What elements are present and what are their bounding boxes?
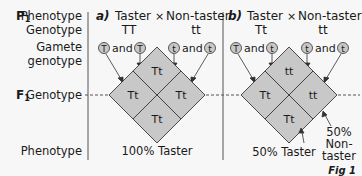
cell-bottom-genotype: Tt [150,113,163,126]
cell-right-genotype: Tt [174,89,187,102]
gamete-label-line2: genotype [28,54,82,68]
f1-phenotype-label: Phenotype [21,144,82,158]
panel-a: a) Taster × Non-taster TT tt T and T t a… [96,9,230,158]
figure-label: Fig 1 [328,165,356,176]
panel-a-parent1-phenotype: Taster [114,9,151,23]
panel-b-letter: b) [228,9,242,23]
cell-right-genotype: tt [309,89,318,102]
panel-a-parent2-phenotype: Non-taster [166,9,230,23]
gamete-and-label: and [315,42,336,55]
gamete-allele: t [172,44,176,54]
panel-b: b) Taster × Non-taster Tt tt T and t t a… [228,9,362,163]
cell-left-genotype: Tt [126,89,139,102]
panel-b-result-taster: 50% Taster [252,145,316,159]
panel-a-letter: a) [96,9,110,23]
panel-b-parent2-phenotype: Non-taster [298,9,362,23]
gamete-label-line1: Gamete [36,40,82,54]
panel-b-result-nontaster-line3: taster [322,149,356,163]
diagram-canvas: P1 Phenotype Genotype Gamete genotype F1… [0,0,362,176]
panel-a-parent1-genotype: TT [121,23,137,37]
cell-top-genotype: tt [285,65,294,78]
gamete-and-label: and [244,42,265,55]
cell-left-genotype: Tt [258,89,271,102]
gamete-allele: t [341,44,345,54]
panel-a-parent2-genotype: tt [191,23,201,37]
gamete-allele: T [100,44,107,54]
gamete-allele: T [232,44,239,54]
panel-b-parent1-phenotype: Taster [246,9,283,23]
phenotype-label: Phenotype [21,9,82,23]
gamete-and-label: and [182,42,203,55]
panel-a-cross-symbol: × [155,10,164,23]
gamete-allele: t [208,44,212,54]
panel-b-parent2-genotype: tt [318,23,328,37]
panel-b-parent1-genotype: Tt [254,23,267,37]
panel-b-punnett-diamond [241,47,337,143]
gamete-allele: t [270,44,274,54]
gamete-allele: t [305,44,309,54]
punnett-square-figure: P1 Phenotype Genotype Gamete genotype F1… [0,0,362,176]
gamete-allele: T [136,44,143,54]
genotype-label: Genotype [26,23,82,37]
f1-genotype-label: Genotype [26,88,82,102]
panel-b-cross-symbol: × [287,10,296,23]
panel-a-result: 100% Taster [121,144,192,158]
cell-bottom-genotype: Tt [282,113,295,126]
gamete-and-label: and [112,42,133,55]
cell-top-genotype: Tt [150,65,163,78]
panel-a-punnett-diamond [109,47,205,143]
